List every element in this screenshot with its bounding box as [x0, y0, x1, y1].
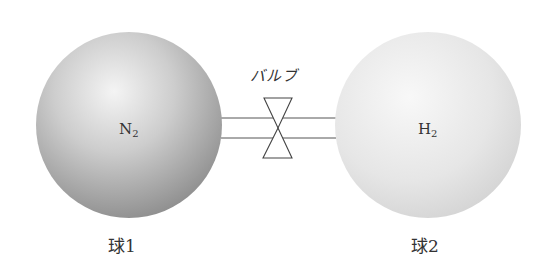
- gas-symbol: H: [418, 120, 431, 138]
- diagram-canvas: [0, 0, 549, 269]
- valve-label: バルブ: [250, 64, 298, 85]
- gas-subscript: 2: [132, 128, 138, 139]
- valve-icon: [263, 98, 292, 158]
- sphere-2-caption: 球2: [411, 232, 439, 257]
- sphere-1-gas-label: N2: [119, 120, 139, 139]
- sphere-2-gas-label: H2: [418, 120, 437, 139]
- gas-subscript: 2: [431, 128, 437, 139]
- gas-symbol: N: [119, 120, 132, 138]
- sphere-1-caption: 球1: [108, 232, 136, 257]
